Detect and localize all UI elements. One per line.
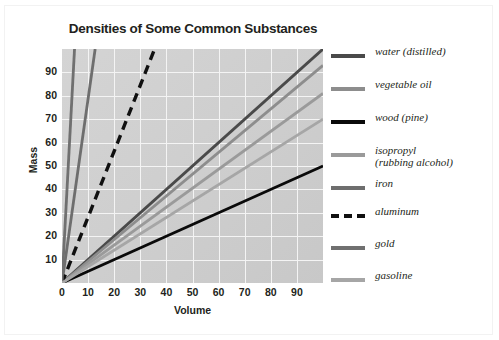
series-line [62,49,323,283]
x-axis-title: Volume [62,304,323,316]
chart-legend: water (distilled)vegetable oilwood (pine… [331,46,499,304]
plot-area [62,49,323,283]
legend-item[interactable]: aluminum [331,206,499,232]
x-tick-label: 10 [76,286,100,298]
legend-item[interactable]: isopropyl(rubbing alcohol) [331,145,499,171]
chart-title: Densities of Some Common Substances [62,21,324,36]
y-tick-label: 10 [31,253,57,265]
x-tick-label: 40 [154,286,178,298]
y-tick-label: 90 [31,65,57,77]
legend-item[interactable]: gold [331,238,499,264]
y-tick-label: 80 [31,89,57,101]
legend-label: wood (pine) [375,111,499,123]
legend-swatch [331,153,365,157]
x-tick-label: 70 [233,286,257,298]
legend-label: gasoline [375,269,499,281]
legend-label: water (distilled) [375,45,499,57]
x-axis-tick-labels: 0102030405060708090 [62,286,323,302]
series-lines [62,49,323,283]
legend-label: iron [375,177,499,189]
y-tick-label: 20 [31,229,57,241]
legend-label: gold [375,237,499,249]
series-line [62,93,323,283]
x-tick-label: 80 [259,286,283,298]
legend-item[interactable]: vegetable oil [331,79,499,105]
legend-item[interactable]: gasoline [331,270,499,296]
legend-swatch [331,87,365,91]
y-tick-label: 70 [31,112,57,124]
x-tick-label: 60 [207,286,231,298]
x-tick-label: 0 [50,286,74,298]
legend-label: vegetable oil [375,78,499,90]
legend-item[interactable]: water (distilled) [331,46,499,72]
legend-swatch [331,246,365,250]
series-line [62,119,323,283]
legend-swatch [331,120,365,124]
legend-swatch [331,214,365,218]
x-tick-label: 90 [285,286,309,298]
y-axis-title: Mass [27,130,39,190]
figure-frame: Densities of Some Common Substances 1020… [4,5,493,335]
legend-label: aluminum [375,205,499,217]
legend-item[interactable]: iron [331,178,499,204]
x-tick-label: 50 [181,286,205,298]
x-tick-label: 30 [128,286,152,298]
legend-label: isopropyl(rubbing alcohol) [375,144,499,168]
y-tick-label: 30 [31,206,57,218]
legend-item[interactable]: wood (pine) [331,112,499,138]
legend-swatch [331,186,365,190]
series-line [62,65,323,283]
legend-swatch [331,278,365,282]
x-tick-label: 20 [102,286,126,298]
legend-swatch [331,54,365,58]
